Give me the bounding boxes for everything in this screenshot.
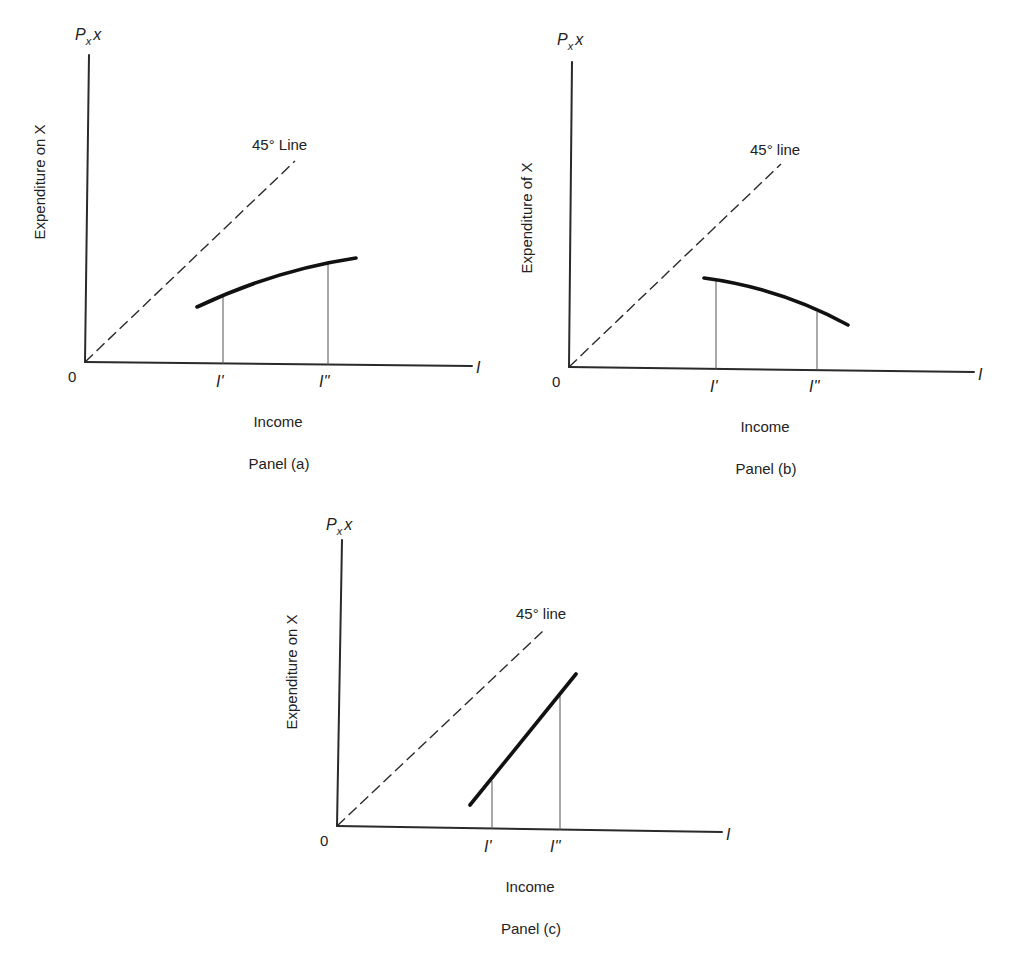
panel-a-y-axis [85,55,89,362]
panel-c-origin-label: 0 [320,832,328,849]
panel-a-tick-i1: I' [216,373,224,390]
panel-b: Pxx I 0 Expenditure of X 45° line I' I''… [518,31,983,477]
panel-b-45-line-label: 45° line [750,141,800,158]
panel-a-y-label: Expenditure on X [31,124,48,239]
panel-a: Pxx I 0 Expenditure on X 45° Line I' I''… [31,26,481,472]
panel-a-tick-i2: I'' [319,373,331,390]
panel-b-x-label: Income [740,418,789,435]
panel-b-caption: Panel (b) [736,460,797,477]
panel-b-x-axis [569,367,974,372]
panel-c-y-symbol: Pxx [326,516,353,537]
panel-a-x-label: Income [253,413,302,430]
panel-c-y-label: Expenditure on X [283,614,300,729]
panel-c-tick-i1: I' [484,838,492,855]
panel-c-x-axis [337,826,722,832]
panel-b-expenditure-curve [704,278,848,325]
panel-c: Pxx I 0 Expenditure on X 45° line I' I''… [283,516,731,937]
panel-c-45-degree-line [337,629,545,826]
panel-a-expenditure-curve [197,258,356,307]
panel-b-y-axis [569,62,572,367]
panel-b-45-degree-line [569,164,781,367]
figure: Pxx I 0 Expenditure on X 45° Line I' I''… [0,0,1019,973]
panel-a-45-degree-line [85,161,295,362]
panel-c-caption: Panel (c) [501,920,561,937]
panel-c-tick-i2: I'' [550,838,562,855]
panel-c-45-line-label: 45° line [516,605,566,622]
panel-a-x-axis [85,362,472,366]
panel-b-y-symbol: Pxx [557,31,584,52]
panel-b-origin-label: 0 [552,373,560,390]
panel-c-y-axis [337,540,342,826]
panel-b-tick-i2: I'' [809,378,821,395]
panel-b-tick-i1: I' [710,378,718,395]
panel-b-x-symbol: I [978,366,983,383]
panel-b-y-label: Expenditure of X [518,163,535,274]
panel-a-45-line-label: 45° Line [252,136,307,153]
panel-a-y-symbol: Pxx [75,26,102,47]
panel-c-x-label: Income [505,878,554,895]
panel-a-origin-label: 0 [68,368,76,385]
panel-c-x-symbol: I [726,826,731,843]
panel-a-caption: Panel (a) [249,455,310,472]
panel-a-x-symbol: I [476,359,481,376]
